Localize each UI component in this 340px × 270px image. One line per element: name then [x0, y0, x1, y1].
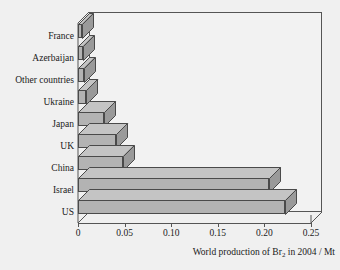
- x-axis-tick: [125, 223, 126, 227]
- x-axis-title-after: in 2004 / Mt: [285, 247, 335, 257]
- x-axis-title: World production of Br2 in 2004 / Mt: [0, 247, 335, 259]
- x-axis-tick: [171, 223, 172, 227]
- category-label: Azerbaijan: [32, 53, 74, 63]
- category-label: Israel: [53, 185, 74, 195]
- category-label: Other countries: [15, 75, 74, 85]
- x-axis-line: [78, 223, 311, 224]
- x-axis-tick-label: 0.05: [116, 228, 133, 238]
- category-label: China: [51, 163, 74, 173]
- category-label: UK: [60, 141, 74, 151]
- x-axis-title-before: World production of Br: [193, 247, 282, 257]
- category-label: Japan: [52, 119, 74, 129]
- bar: [78, 200, 285, 214]
- category-label: US: [62, 207, 74, 217]
- category-label: Ukraine: [43, 97, 74, 107]
- x-axis-tick-label: 0.20: [256, 228, 273, 238]
- chart-container: France Azerbaijan Other countries Ukrain…: [0, 0, 340, 270]
- x-axis-tick-label: 0.15: [209, 228, 226, 238]
- x-axis-tick: [311, 223, 312, 227]
- bar-side-face: [285, 189, 298, 216]
- category-label: France: [48, 31, 74, 41]
- cropped-header-text: [0, 0, 340, 8]
- x-axis-tick-label: 0: [76, 228, 81, 238]
- x-axis-tick: [264, 223, 265, 227]
- bar-front-face: [78, 200, 285, 214]
- x-axis-tick-label: 0.25: [303, 228, 320, 238]
- x-axis-tick-label: 0.10: [163, 228, 180, 238]
- x-axis-tick: [78, 223, 79, 227]
- x-axis-tick: [218, 223, 219, 227]
